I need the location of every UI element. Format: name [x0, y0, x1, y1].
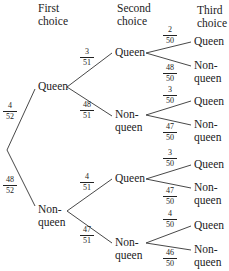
header-third-line2: choice [197, 17, 227, 30]
prob-third-3: 3 50 [163, 86, 177, 105]
node-second-nonqueen-a: Non- queen [115, 108, 142, 134]
node-second-queen-b: Queen [115, 172, 145, 185]
node-first-nonqueen: Non- queen [38, 203, 65, 229]
node-first-queen: Queen [38, 80, 68, 93]
header-first-line1: First [38, 2, 68, 15]
node-second-nonqueen-b: Non- queen [115, 236, 142, 262]
node-third-nonqueen-3: Non- queen [194, 181, 221, 207]
prob-third-2: 48 50 [163, 64, 177, 83]
prob-second-queen-b: 4 51 [80, 173, 94, 192]
node-third-nonqueen-4: Non- queen [194, 243, 221, 269]
header-first-choice: First choice [38, 2, 68, 28]
prob-second-queen-a: 3 51 [80, 48, 94, 67]
node-third-queen-2: Queen [194, 95, 224, 108]
prob-second-nonqueen-a: 48 51 [80, 101, 94, 120]
prob-third-1: 2 50 [163, 26, 177, 45]
node-third-queen-3: Queen [194, 158, 224, 171]
prob-first-nonqueen: 48 52 [3, 176, 17, 195]
header-second-line1: Second [117, 2, 151, 15]
prob-third-7: 4 50 [163, 210, 177, 229]
prob-third-8: 46 50 [163, 249, 177, 268]
header-second-line2: choice [117, 15, 151, 28]
header-third-choice: Third choice [197, 4, 227, 30]
prob-third-5: 3 50 [163, 149, 177, 168]
node-third-queen-1: Queen [194, 35, 224, 48]
prob-third-4: 47 50 [163, 123, 177, 142]
header-second-choice: Second choice [117, 2, 151, 28]
prob-first-queen: 4 52 [3, 102, 17, 121]
header-third-line1: Third [197, 4, 227, 17]
node-third-queen-4: Queen [194, 219, 224, 232]
prob-third-6: 47 50 [163, 187, 177, 206]
node-third-nonqueen-1: Non- queen [194, 59, 221, 85]
node-third-nonqueen-2: Non- queen [194, 118, 221, 144]
prob-second-nonqueen-b: 47 51 [80, 226, 94, 245]
header-first-line2: choice [38, 15, 68, 28]
node-second-queen-a: Queen [115, 46, 145, 59]
